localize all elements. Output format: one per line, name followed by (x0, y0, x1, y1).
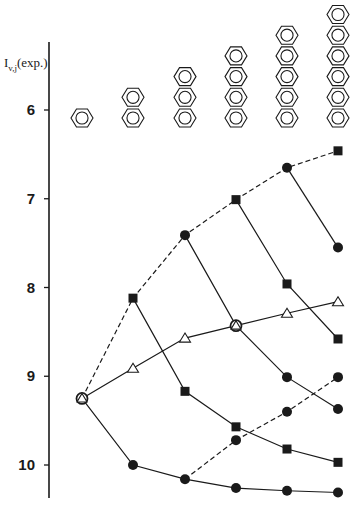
square-marker (283, 445, 292, 454)
acene-structures (71, 6, 349, 128)
circle-marker (128, 460, 138, 470)
square-marker (334, 146, 343, 155)
square-marker (283, 279, 292, 288)
series-line (185, 377, 338, 479)
circle-marker (333, 243, 343, 253)
y-tick-label: 9 (5, 367, 35, 384)
chart-canvas (0, 0, 357, 506)
molecule-naphthalene-icon (122, 88, 144, 127)
square-marker (232, 195, 241, 204)
circle-marker (282, 407, 292, 417)
circle-marker (180, 230, 190, 240)
circle-marker (180, 474, 190, 484)
y-axis-label-suffix: (exp.) (17, 55, 48, 70)
square-marker (129, 294, 138, 303)
series-line (236, 200, 338, 339)
y-tick-label: 10 (5, 456, 35, 473)
series-line (185, 235, 338, 409)
y-tick-label: 7 (5, 190, 35, 207)
triangle-marker (128, 363, 139, 372)
circle-marker (333, 404, 343, 414)
circle-marker (231, 435, 241, 445)
circle-marker (282, 163, 292, 173)
y-axis-label: Iv,j(exp.) (4, 55, 48, 73)
y-tick-label: 8 (5, 279, 35, 296)
molecule-hexacene-icon (327, 6, 349, 128)
square-marker (334, 334, 343, 343)
molecule-pentacene-icon (276, 26, 298, 127)
data-markers (77, 146, 344, 497)
molecule-anthracene-icon (174, 68, 196, 127)
square-marker (232, 422, 241, 431)
circle-marker (333, 372, 343, 382)
molecule-benzene-icon (71, 109, 93, 127)
triangle-marker (333, 297, 344, 306)
circle-marker (282, 372, 292, 382)
circle-marker (231, 483, 241, 493)
molecule-tetracene-icon (225, 47, 247, 127)
square-marker (334, 458, 343, 467)
series-line (82, 302, 338, 399)
y-axis (44, 42, 49, 498)
series-line (287, 168, 338, 248)
y-tick-label: 6 (5, 101, 35, 118)
circle-marker (333, 488, 343, 498)
square-marker (181, 387, 190, 396)
series-line (82, 398, 338, 492)
series-lines (82, 151, 338, 493)
circle-marker (282, 486, 292, 496)
y-axis-label-subscript: v,j (8, 63, 17, 73)
